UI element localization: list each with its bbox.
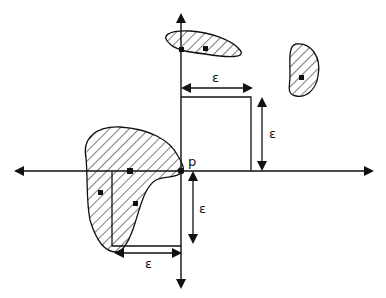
eps-top-label: ε <box>212 70 219 85</box>
eps-right-label: ε <box>269 126 276 141</box>
data-point <box>299 75 304 80</box>
data-point <box>133 201 138 206</box>
diagram-canvas: p ε ε ε ε <box>0 0 386 298</box>
data-point <box>203 46 208 51</box>
left-cluster <box>85 127 183 252</box>
top-cluster <box>166 31 242 57</box>
point-p-label: p <box>188 154 196 169</box>
eps-down-label: ε <box>199 201 206 216</box>
point-p <box>178 168 184 174</box>
eps-bottom-label: ε <box>145 256 152 271</box>
right-cluster <box>289 44 319 96</box>
data-point <box>98 190 103 195</box>
